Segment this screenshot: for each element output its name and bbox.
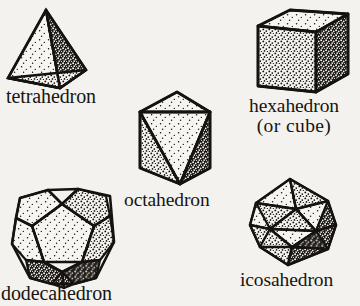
hexahedron-face-left [258,26,316,92]
hexahedron-drawing [250,4,358,100]
caption-hexahedron-line2: (or cube) [249,116,339,136]
solid-tetrahedron [2,2,102,94]
caption-dodecahedron: dodecahedron [1,283,112,303]
icosahedron-drawing [244,173,342,273]
octahedron-drawing [132,86,222,192]
caption-hexahedron: hexahedron (or cube) [249,96,339,136]
platonic-solids-figure: tetrahedron hexahedron (or cube) [0,0,360,306]
tetrahedron-drawing [2,2,102,94]
caption-octahedron: octahedron [124,190,210,210]
solid-octahedron [132,86,222,192]
caption-tetrahedron: tetrahedron [6,86,96,106]
caption-hexahedron-line1: hexahedron [249,95,339,116]
caption-icosahedron: icosahedron [240,270,333,290]
solid-dodecahedron [8,182,120,288]
solid-hexahedron [250,4,358,100]
octahedron-face-top [140,92,210,112]
solid-icosahedron [244,173,342,273]
dodecahedron-drawing [8,182,120,288]
